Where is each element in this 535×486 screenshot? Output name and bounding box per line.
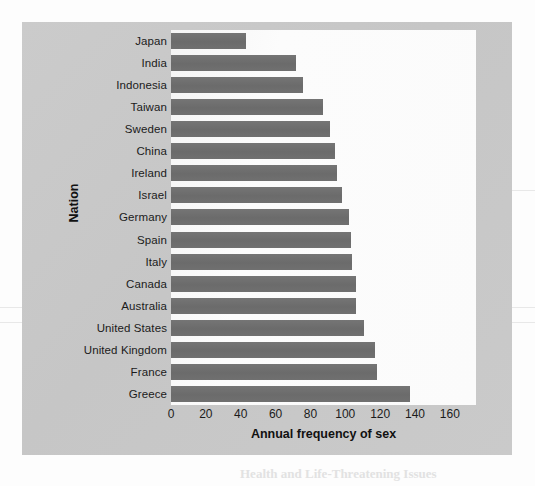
y-axis-tick-label: Sweden [2,118,167,140]
bar [171,276,356,292]
y-axis-tick-label-text: Sweden [27,118,167,140]
y-axis-tick-label: Germany [2,206,167,228]
y-axis-tick-label: Israel [2,184,167,206]
y-axis-tick-label-text: Indonesia [27,74,167,96]
y-axis-tick-label-text: France [27,361,167,383]
y-axis-tick-label-text: Spain [27,229,167,251]
bar [171,386,410,402]
y-axis-tick-label-text: United Kingdom [27,339,167,361]
y-axis-tick-label: Taiwan [2,96,167,118]
y-axis-tick-label-text: Japan [27,30,167,52]
y-axis-tick-label: India [2,52,167,74]
y-axis-title: Nation [67,173,81,233]
bar [171,254,352,270]
y-axis-tick-label: United States [2,317,167,339]
x-axis-title: Annual frequency of sex [171,427,476,441]
bar [171,121,330,137]
y-axis-tick-label: Canada [2,273,167,295]
bar [171,342,375,358]
plot-area [171,30,476,405]
x-axis-tick-label: 140 [405,407,425,421]
y-axis-tick-label-text: Greece [27,383,167,405]
x-axis-tick-label: 60 [269,407,282,421]
bar [171,232,351,248]
x-axis-tick-label: 40 [234,407,247,421]
y-axis-tick-label-text: Taiwan [27,96,167,118]
bar [171,77,303,93]
page-text-bleed: Health and Life-Threatening Issues [240,466,437,482]
bar [171,55,296,71]
y-axis-tick-label: China [2,140,167,162]
y-axis-tick-label: Australia [2,295,167,317]
y-axis-tick-label-text: Canada [27,273,167,295]
bar-series [171,30,476,405]
bar [171,99,323,115]
x-axis-tick-label: 160 [440,407,460,421]
bar [171,298,356,314]
bar [171,187,342,203]
y-axis-tick-label: Spain [2,229,167,251]
x-axis-tick-labels: 020406080100120140160 [0,407,535,423]
x-axis-tick-label: 100 [335,407,355,421]
bar [171,320,364,336]
y-axis-tick-label: Italy [2,251,167,273]
y-axis-category-labels: JapanIndiaIndonesiaTaiwanSwedenChinaIrel… [2,30,167,405]
bar [171,33,246,49]
y-axis-tick-label: Greece [2,383,167,405]
y-axis-tick-label: Indonesia [2,74,167,96]
bar [171,165,337,181]
x-axis-tick-label: 120 [370,407,390,421]
y-axis-tick-label-text: China [27,140,167,162]
bar [171,143,335,159]
x-axis-tick-label: 20 [199,407,212,421]
y-axis-tick-label-text: Australia [27,295,167,317]
y-axis-tick-label: Ireland [2,162,167,184]
y-axis-tick-label-text: United States [27,317,167,339]
y-axis-tick-label-text: Israel [27,184,167,206]
x-axis-tick-label: 80 [304,407,317,421]
y-axis-tick-label: France [2,361,167,383]
x-axis-tick-label: 0 [168,407,175,421]
bar [171,364,377,380]
y-axis-tick-label: Japan [2,30,167,52]
bar [171,209,349,225]
y-axis-tick-label: United Kingdom [2,339,167,361]
y-axis-tick-label-text: Ireland [27,162,167,184]
y-axis-tick-label-text: Germany [27,206,167,228]
y-axis-tick-label-text: Italy [27,251,167,273]
y-axis-tick-label-text: India [27,52,167,74]
scanned-page: Health and Life-Threatening Issues Japan… [0,0,535,486]
